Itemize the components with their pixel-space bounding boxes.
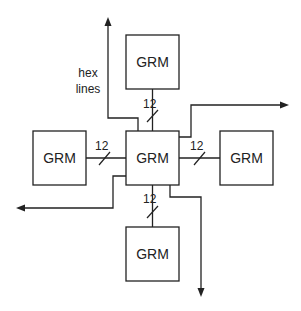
bus-width-right: 12	[190, 139, 204, 153]
arrow-right-icon	[280, 102, 289, 109]
module-label: GRM	[136, 246, 169, 262]
bus-width-left: 12	[95, 139, 109, 153]
bus-width-bottom: 12	[143, 192, 157, 206]
module-label: GRM	[136, 150, 169, 166]
arrow-down-icon	[198, 288, 205, 297]
bus-top: 12	[143, 89, 158, 131]
hex-lines-annotation: hex lines	[76, 66, 101, 96]
grm-module-top: GRM	[126, 35, 179, 89]
bus-right: 12	[179, 139, 220, 165]
grm-module-right: GRM	[220, 131, 273, 185]
module-label: GRM	[136, 54, 169, 70]
arrow-left-icon	[16, 205, 25, 212]
bus-width-top: 12	[143, 97, 157, 111]
grm-module-left: GRM	[33, 131, 86, 185]
module-label: GRM	[230, 150, 263, 166]
grm-interconnect-diagram: 12 12 12 12 GRM GRM GRM GRM GRM hex line…	[0, 0, 301, 311]
annotation-line-1: hex	[78, 66, 97, 80]
grm-module-center: GRM	[126, 131, 179, 185]
arrow-up-icon	[105, 17, 112, 26]
annotation-line-2: lines	[76, 82, 101, 96]
bus-left: 12	[86, 139, 126, 165]
grm-module-bottom: GRM	[126, 227, 179, 281]
module-label: GRM	[43, 150, 76, 166]
bus-bottom: 12	[143, 185, 158, 227]
